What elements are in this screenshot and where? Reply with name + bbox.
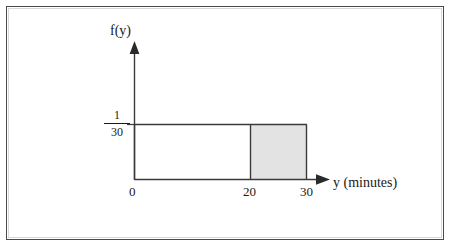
fraction-bar [104,123,130,124]
fraction-numerator: 1 [104,109,130,122]
density-height-label: 1 30 [104,109,130,138]
y-axis-label: f(y) [110,24,131,38]
uniform-distribution-plot [0,0,462,249]
figure-root: f(y) y (minutes) 1 30 0 20 30 [0,0,462,249]
x-axis-label: y (minutes) [333,176,397,190]
shaded-region-20-to-30 [251,125,307,180]
y-axis-arrowhead-icon [130,41,140,54]
plot-svg [0,0,462,249]
x-tick-label-0: 0 [129,185,136,198]
x-axis-arrowhead-icon [316,174,330,184]
fraction-denominator: 30 [104,125,130,138]
x-tick-label-20: 20 [243,185,256,198]
x-tick-label-30: 30 [300,185,313,198]
